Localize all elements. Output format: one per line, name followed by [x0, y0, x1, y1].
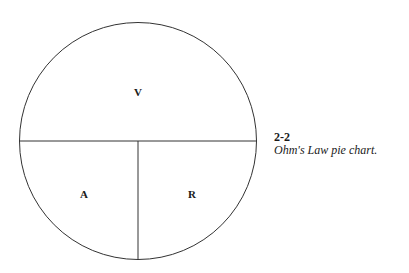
figure-number: 2-2 — [274, 131, 377, 143]
figure-caption: 2-2 Ohm's Law pie chart. — [274, 131, 377, 157]
segment-label-a: A — [80, 188, 88, 200]
segment-label-v: V — [134, 86, 142, 98]
figure-title: Ohm's Law pie chart. — [274, 143, 377, 157]
segment-label-r: R — [188, 188, 197, 200]
